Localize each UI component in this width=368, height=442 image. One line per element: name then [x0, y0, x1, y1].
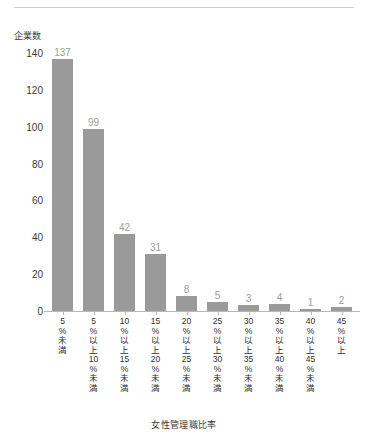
bar-value-label: 31: [140, 242, 171, 253]
x-axis-category-label: 40%以上45%未満: [295, 317, 326, 393]
bar: [83, 129, 104, 311]
category-label-char: 上: [326, 346, 357, 356]
y-axis-tick-label: 20: [1, 269, 43, 280]
x-axis-tick: [187, 312, 188, 315]
x-axis-category-label: 5%以上10%未満: [78, 317, 109, 393]
category-label-char: 満: [264, 384, 295, 394]
category-label-char: 満: [140, 384, 171, 394]
bar-value-label: 5: [202, 290, 233, 301]
bar-chart: 企業数 020406080100120140 137994231853412 女…: [0, 0, 368, 442]
x-axis-tick: [218, 312, 219, 315]
x-axis-line: [44, 311, 360, 312]
x-axis-tick: [249, 312, 250, 315]
bar-group: 4: [264, 53, 295, 311]
x-axis-tick: [63, 312, 64, 315]
bar-group: 8: [171, 53, 202, 311]
x-axis-tick: [342, 312, 343, 315]
x-axis-tick: [280, 312, 281, 315]
x-axis-category-label: 15%以上20%未満: [140, 317, 171, 393]
bar-group: 5: [202, 53, 233, 311]
y-axis-tick-labels: 020406080100120140: [0, 0, 43, 442]
bar-group: 3: [233, 53, 264, 311]
category-label-char: 満: [109, 384, 140, 394]
plot-area: 137994231853412: [47, 53, 357, 311]
x-axis-category-label: 30%以上35%未満: [233, 317, 264, 393]
bar: [207, 302, 228, 311]
bar-group: 42: [109, 53, 140, 311]
bar-value-label: 4: [264, 292, 295, 303]
bar: [114, 234, 135, 311]
y-axis-tick-label: 0: [1, 306, 43, 317]
bar: [269, 304, 290, 311]
bar-value-label: 42: [109, 222, 140, 233]
x-axis-title: 女性管理職比率: [0, 418, 368, 431]
bar-group: 1: [295, 53, 326, 311]
x-axis-tick: [94, 312, 95, 315]
bar-value-label: 137: [47, 47, 78, 58]
bar-value-label: 1: [295, 297, 326, 308]
y-axis-tick-label: 100: [1, 121, 43, 132]
bar-value-label: 2: [326, 295, 357, 306]
y-axis-tick-label: 140: [1, 48, 43, 59]
x-axis-category-label: 5%未満: [47, 317, 78, 355]
x-axis-category-label: 45%以上: [326, 317, 357, 355]
x-axis-tick: [311, 312, 312, 315]
bar: [176, 296, 197, 311]
y-axis-tick-label: 40: [1, 232, 43, 243]
x-axis-category-label: 20%以上25%未満: [171, 317, 202, 393]
category-label-char: 満: [47, 346, 78, 356]
x-axis-tick: [125, 312, 126, 315]
category-label-char: 満: [78, 384, 109, 394]
y-axis-tick-label: 120: [1, 84, 43, 95]
x-axis-category-label: 25%以上30%未満: [202, 317, 233, 393]
bar-group: 2: [326, 53, 357, 311]
y-axis-tick-label: 80: [1, 158, 43, 169]
bar: [52, 59, 73, 311]
x-axis-category-label: 10%以上15%未満: [109, 317, 140, 393]
bar-group: 99: [78, 53, 109, 311]
category-label-char: 満: [233, 384, 264, 394]
x-axis-tick: [156, 312, 157, 315]
category-label-char: 満: [295, 384, 326, 394]
bar-value-label: 3: [233, 293, 264, 304]
bar-value-label: 8: [171, 284, 202, 295]
bar-value-label: 99: [78, 117, 109, 128]
bar-group: 31: [140, 53, 171, 311]
bar: [145, 254, 166, 311]
bar-group: 137: [47, 53, 78, 311]
category-label-char: 満: [171, 384, 202, 394]
category-label-char: 満: [202, 384, 233, 394]
top-divider: [14, 7, 354, 8]
y-axis-tick-label: 60: [1, 195, 43, 206]
x-axis-category-label: 35%以上40%未満: [264, 317, 295, 393]
